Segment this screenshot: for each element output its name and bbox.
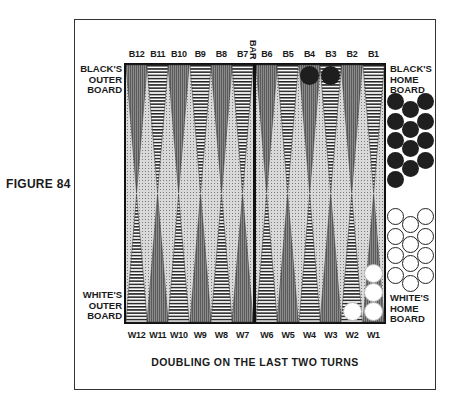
- point-label-w11: W11: [147, 330, 169, 340]
- figure-label: FIGURE 84: [6, 177, 71, 191]
- label-line: BLACK'S: [78, 64, 122, 75]
- point-b7: [232, 65, 253, 193]
- point-w11: [147, 194, 168, 322]
- borne-off-white-checker: [417, 267, 434, 284]
- point-label-b7: B7: [231, 49, 253, 59]
- point-label-w6: W6: [256, 330, 278, 340]
- borne-off-black-checker: [417, 152, 434, 169]
- point-b2: [341, 65, 362, 193]
- black-checker: [300, 66, 319, 85]
- white-checker: [364, 302, 383, 321]
- point-label-w2: W2: [341, 330, 363, 340]
- point-label-b8: B8: [210, 49, 232, 59]
- point-label-w7: W7: [231, 330, 253, 340]
- point-label-b2: B2: [341, 49, 363, 59]
- white-home-board-label: WHITE'S HOME BOARD: [390, 293, 436, 325]
- point-label-w5: W5: [277, 330, 299, 340]
- point-w12: [126, 194, 147, 322]
- point-label-b3: B3: [320, 49, 342, 59]
- point-b10: [168, 65, 189, 193]
- point-label-w10: W10: [168, 330, 190, 340]
- point-label-b1: B1: [362, 49, 384, 59]
- point-label-b6: B6: [256, 49, 278, 59]
- point-w7: [232, 194, 253, 322]
- point-label-b5: B5: [277, 49, 299, 59]
- label-line: BOARD: [390, 314, 436, 325]
- label-line: WHITE'S: [78, 290, 122, 301]
- borne-off-black-checker: [417, 93, 434, 110]
- point-w8: [211, 194, 232, 322]
- point-label-w1: W1: [362, 330, 384, 340]
- point-b12: [126, 65, 147, 193]
- point-w10: [168, 194, 189, 322]
- point-label-w4: W4: [298, 330, 320, 340]
- point-b5: [277, 65, 298, 193]
- black-outer-board-label: BLACK'S OUTER BOARD: [78, 64, 122, 96]
- white-checker: [343, 302, 362, 321]
- point-label-b10: B10: [168, 49, 190, 59]
- point-w4: [299, 194, 320, 322]
- white-checker: [364, 283, 383, 302]
- point-label-b9: B9: [189, 49, 211, 59]
- borne-off-black-checker: [387, 171, 404, 188]
- point-b6: [256, 65, 277, 193]
- borne-off-white-checker: [417, 208, 434, 225]
- borne-off-white-checker: [417, 228, 434, 245]
- figure-caption: DOUBLING ON THE LAST TWO TURNS: [74, 356, 436, 368]
- point-b9: [190, 65, 211, 193]
- point-w5: [277, 194, 298, 322]
- point-w3: [320, 194, 341, 322]
- point-b11: [147, 65, 168, 193]
- point-label-b12: B12: [126, 49, 148, 59]
- white-outer-board-label: WHITE'S OUTER BOARD: [78, 290, 122, 322]
- borne-off-black-checker: [417, 113, 434, 130]
- borne-off-white-checker: [417, 247, 434, 264]
- point-label-b11: B11: [147, 49, 169, 59]
- point-b1: [363, 65, 384, 193]
- borne-off-black-checker: [417, 132, 434, 149]
- point-b8: [211, 65, 232, 193]
- point-label-w8: W8: [210, 330, 232, 340]
- point-label-w12: W12: [126, 330, 148, 340]
- point-w6: [256, 194, 277, 322]
- black-home-board-label: BLACK'S HOME BOARD: [390, 64, 436, 96]
- white-checker: [364, 264, 383, 283]
- point-label-w3: W3: [320, 330, 342, 340]
- label-line: BLACK'S: [390, 64, 436, 75]
- label-line: BOARD: [78, 85, 122, 96]
- point-w9: [190, 194, 211, 322]
- label-line: BOARD: [78, 311, 122, 322]
- bar: [253, 63, 256, 324]
- point-label-w9: W9: [189, 330, 211, 340]
- label-line: WHITE'S: [390, 293, 436, 304]
- point-label-b4: B4: [298, 49, 320, 59]
